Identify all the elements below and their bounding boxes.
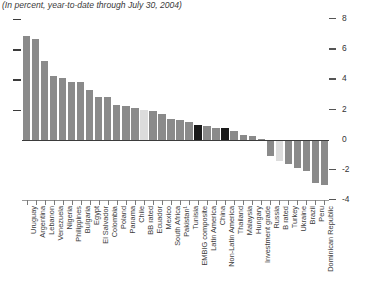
y-tick-mark	[329, 48, 336, 49]
bar	[221, 128, 228, 140]
bar	[158, 114, 165, 140]
x-axis-label: Russia	[273, 206, 281, 229]
x-axis-label: Poland	[120, 206, 128, 229]
x-tick-mark	[252, 200, 253, 205]
x-tick-mark	[135, 200, 136, 205]
x-tick-mark	[162, 200, 163, 205]
bar	[276, 140, 283, 161]
x-tick-mark	[261, 200, 262, 205]
plot-area	[22, 19, 329, 200]
bar	[167, 119, 174, 140]
bar	[194, 125, 201, 139]
bar	[185, 122, 192, 140]
x-axis-label: Brazil	[309, 206, 317, 224]
x-axis-label: Philippines	[75, 206, 83, 242]
x-tick-mark	[171, 200, 172, 205]
x-tick-mark	[99, 200, 100, 205]
x-tick-mark	[90, 200, 91, 205]
x-tick-mark	[36, 200, 37, 205]
x-tick-mark	[288, 200, 289, 205]
x-tick-mark	[144, 200, 145, 205]
bar	[149, 111, 156, 140]
zero-axis-line	[22, 140, 329, 141]
y-tick-mark	[329, 78, 336, 79]
x-axis-label: B rated	[282, 206, 290, 230]
x-axis-label: Uruguay	[30, 206, 38, 234]
x-tick-mark	[81, 200, 82, 205]
x-axis-label: Venezuela	[57, 206, 65, 241]
bar	[122, 106, 129, 139]
bar	[212, 128, 219, 140]
x-axis-line	[22, 200, 329, 201]
x-axis-label: Ukraine	[300, 206, 308, 231]
y-tick-label: 2	[342, 104, 347, 115]
x-axis-label: China	[219, 206, 227, 225]
y-tick-mark	[329, 18, 336, 19]
x-axis-label: Malaysia	[246, 206, 254, 235]
x-axis-label: Investment grade	[264, 206, 272, 263]
y-tick-mark	[329, 169, 336, 170]
x-axis-label: Turkey	[291, 206, 299, 228]
y-tick-mark	[329, 109, 336, 110]
chart-container: (In percent, year-to-date through July 3…	[0, 0, 366, 281]
bar	[176, 120, 183, 140]
y-tick-label: 0	[342, 134, 347, 145]
left-tick-dash	[13, 49, 21, 50]
x-tick-mark	[279, 200, 280, 205]
x-axis-labels: UruguayArgentinaLebanonVenezuelaNigeriaP…	[22, 206, 329, 281]
x-axis-label: Bulgaria	[84, 206, 92, 233]
x-tick-mark	[117, 200, 118, 205]
bar	[321, 140, 328, 185]
bar	[267, 140, 274, 157]
x-axis-label: South Africa	[174, 206, 182, 246]
y-tick-label: 8	[342, 13, 347, 24]
x-axis-label: El Salvador	[102, 206, 110, 244]
bar	[203, 126, 210, 140]
bar-series	[22, 19, 329, 200]
bar	[68, 82, 75, 139]
y-axis-right: 86420-2-4	[329, 19, 366, 200]
y-tick-label: -4	[342, 194, 349, 205]
y-tick-label: -2	[342, 164, 349, 175]
x-tick-mark	[45, 200, 46, 205]
bar	[294, 140, 301, 169]
x-axis-label: EMBIG composite	[201, 206, 209, 266]
left-tick-dash	[13, 79, 21, 80]
x-axis-label: Egypt	[93, 206, 101, 225]
bar	[285, 140, 292, 164]
x-tick-mark	[324, 200, 325, 205]
y-tick-mark	[329, 199, 336, 200]
left-tick-dash	[13, 19, 21, 20]
bar	[50, 76, 57, 139]
x-axis-label: Dominican Republic	[327, 206, 335, 272]
x-axis-label: Colombia	[111, 206, 119, 237]
bar	[303, 140, 310, 172]
bar	[77, 82, 84, 139]
x-axis-label: Tunisia	[192, 206, 200, 230]
x-tick-mark	[297, 200, 298, 205]
x-axis-label: Peru	[318, 206, 326, 222]
x-tick-mark	[27, 200, 28, 205]
x-axis-label: Non-Latin America	[228, 206, 236, 267]
x-tick-mark	[126, 200, 127, 205]
x-tick-mark	[198, 200, 199, 205]
x-tick-mark	[315, 200, 316, 205]
bar	[140, 110, 147, 140]
x-axis-label: Ecuador	[156, 206, 164, 234]
x-tick-mark	[216, 200, 217, 205]
x-axis-label: BB rated	[147, 206, 155, 235]
x-tick-mark	[306, 200, 307, 205]
x-tick-mark	[63, 200, 64, 205]
x-tick-mark	[108, 200, 109, 205]
x-axis-label: Latin America	[210, 206, 218, 251]
bar	[86, 90, 93, 140]
x-tick-mark	[270, 200, 271, 205]
x-axis-label: Argentina	[39, 206, 47, 238]
bar	[113, 105, 120, 140]
x-tick-mark	[153, 200, 154, 205]
x-axis-label: Thailand	[237, 206, 245, 234]
x-tick-mark	[72, 200, 73, 205]
x-axis-label: Mexico	[165, 206, 173, 229]
x-tick-mark	[243, 200, 244, 205]
y-tick-mark	[329, 139, 336, 140]
